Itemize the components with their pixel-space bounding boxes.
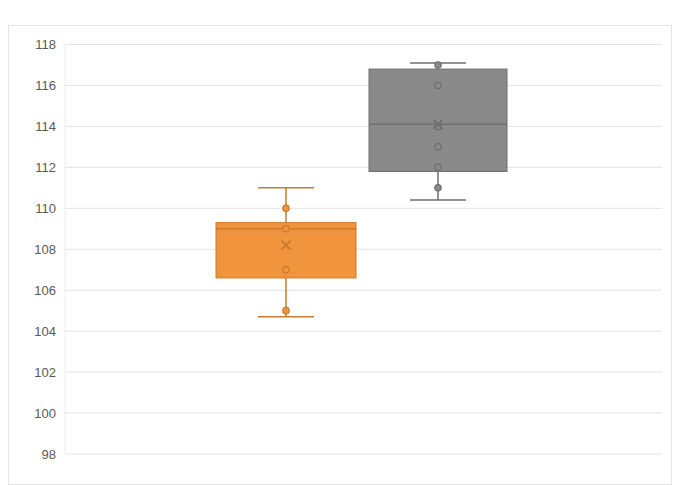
y-tick-label: 102 — [34, 365, 56, 380]
data-point — [435, 144, 441, 150]
y-tick-label: 108 — [34, 242, 56, 257]
data-point — [283, 205, 289, 211]
y-tick-label: 110 — [35, 201, 56, 216]
y-tick-label: 112 — [35, 160, 56, 175]
data-point — [435, 82, 441, 88]
y-tick-label: 106 — [34, 283, 56, 298]
box-series — [216, 62, 507, 317]
data-point — [283, 267, 289, 273]
y-tick-label: 104 — [34, 324, 56, 339]
y-tick-label: 114 — [35, 119, 56, 134]
y-tick-label: 118 — [35, 37, 56, 52]
y-tick-label: 98 — [42, 447, 56, 462]
y-axis: 98100102104106108110112114116118 — [34, 37, 56, 462]
box-series-1 — [216, 188, 356, 317]
data-point — [283, 307, 289, 313]
gridlines — [65, 45, 662, 455]
y-tick-label: 100 — [34, 406, 56, 421]
data-point — [435, 62, 441, 68]
data-point — [435, 164, 441, 170]
data-point — [283, 226, 289, 232]
box-series-2 — [369, 62, 507, 200]
y-tick-label: 116 — [35, 78, 56, 93]
data-point — [435, 185, 441, 191]
